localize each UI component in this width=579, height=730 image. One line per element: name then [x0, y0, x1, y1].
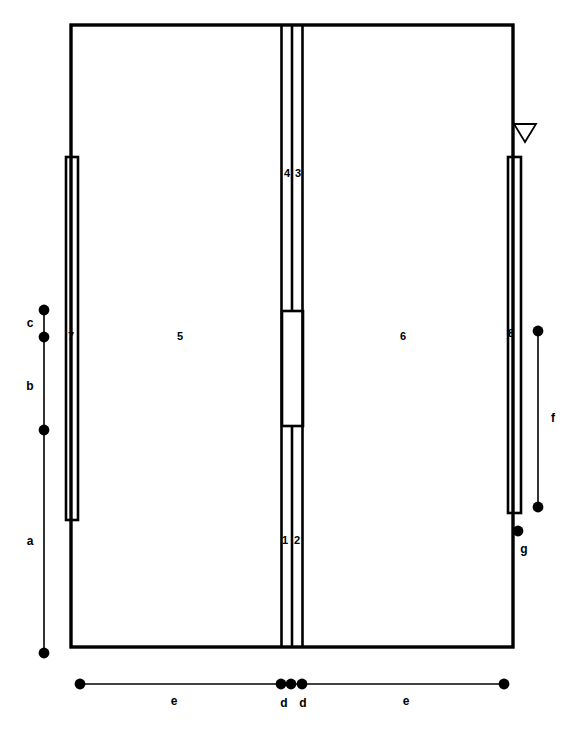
- part-label-8: 8: [508, 327, 514, 339]
- dimension-label-g: g: [520, 542, 527, 556]
- bottom-dimension-dot: [75, 679, 86, 690]
- bottom-dimension-dot: [276, 679, 287, 690]
- right-dimension-dot-g: [513, 526, 524, 537]
- left-dimension-dot: [39, 425, 50, 436]
- dimension-label-b: b: [26, 379, 33, 393]
- dimension-label-f: f: [551, 411, 556, 425]
- right-dimension-dot-f: [533, 326, 544, 337]
- part-label-7: 7: [68, 330, 74, 342]
- left-dimension-dot: [39, 332, 50, 343]
- part-label-3: 3: [295, 167, 301, 179]
- inverted-triangle-icon: [514, 124, 536, 142]
- bottom-dimension-dot: [286, 679, 297, 690]
- dimension-label-d-right: d: [299, 696, 306, 710]
- dimension-label-c: c: [27, 316, 34, 330]
- left-dimension-dot: [39, 648, 50, 659]
- line-drawing-figure: 1 2 3 4 5 6 7 8 a b c d d e e f g: [0, 0, 579, 730]
- dimension-label-a: a: [27, 534, 34, 548]
- part-label-5: 5: [177, 330, 183, 342]
- dimension-label-e-left: e: [171, 694, 178, 708]
- part-label-1: 1: [282, 534, 288, 546]
- bottom-dimension-dot: [297, 679, 308, 690]
- dimension-label-e-right: e: [403, 694, 410, 708]
- part-label-4: 4: [284, 167, 291, 179]
- part-label-6: 6: [400, 330, 406, 342]
- right-dimension-dot-f: [533, 502, 544, 513]
- center-block-outline: [282, 311, 303, 426]
- left-dimension-dot: [39, 305, 50, 316]
- part-label-2: 2: [294, 534, 300, 546]
- bottom-dimension-dot: [499, 679, 510, 690]
- technical-diagram-canvas: 1 2 3 4 5 6 7 8 a b c d d e e f g: [0, 0, 579, 730]
- dimension-label-d-left: d: [280, 696, 287, 710]
